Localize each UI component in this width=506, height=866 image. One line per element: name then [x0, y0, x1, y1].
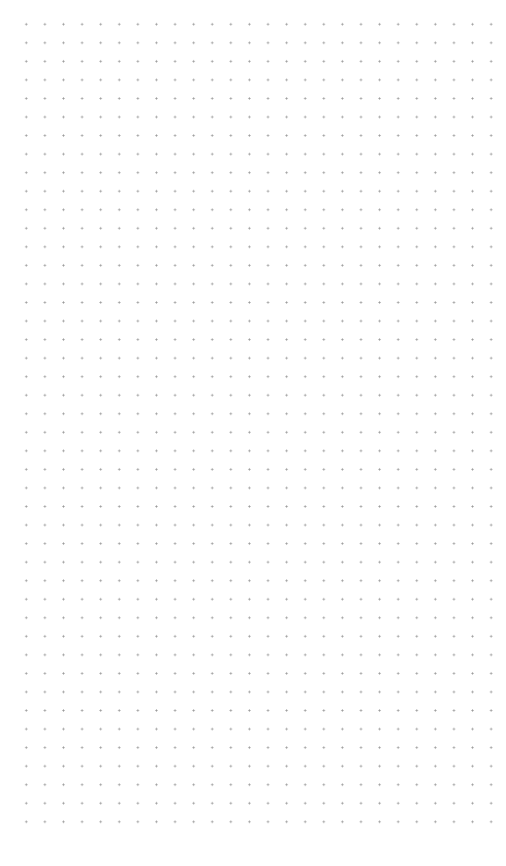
dot-grid-canvas[interactable]	[0, 0, 506, 866]
dot-grid-pattern	[17, 15, 501, 833]
